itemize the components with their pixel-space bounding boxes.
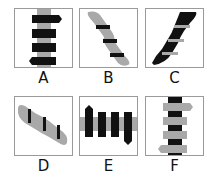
option-f-label: F	[145, 159, 204, 173]
option-c-label: C	[145, 71, 204, 85]
option-d-figure	[15, 97, 72, 155]
option-b-figure	[80, 9, 137, 67]
option-f-figure	[146, 97, 203, 155]
option-b-panel[interactable]	[79, 8, 138, 68]
option-c-figure	[146, 9, 203, 67]
option-e-figure	[80, 97, 137, 155]
option-b-label: B	[79, 71, 138, 85]
option-a-label: A	[14, 71, 73, 85]
option-e-panel[interactable]	[79, 96, 138, 156]
option-f-panel[interactable]	[145, 96, 204, 156]
option-d-label: D	[14, 159, 73, 173]
option-c-panel[interactable]	[145, 8, 204, 68]
option-d-panel[interactable]	[14, 96, 73, 156]
option-a-figure	[15, 9, 72, 67]
option-e-label: E	[79, 159, 138, 173]
option-a-panel[interactable]	[14, 8, 73, 68]
